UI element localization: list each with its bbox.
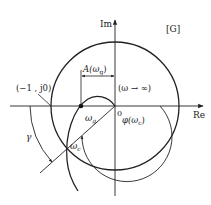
plot-label-text: [G] — [166, 24, 180, 34]
gain-magnitude-close: ) — [103, 64, 106, 74]
omega-c-label: ωc — [70, 141, 81, 152]
omega-infinity-label: (ω → ∞) — [118, 83, 151, 93]
phase-margin-label: γ — [26, 132, 32, 142]
gain-magnitude-text: A(ω — [82, 64, 99, 74]
gain-magnitude-label: A(ωg) — [82, 64, 107, 76]
omega-c-sub: c — [77, 145, 81, 152]
phase-angle-label: φ(ωc) — [122, 115, 145, 126]
critical-point-label: (−1 , j0) — [16, 83, 51, 93]
critical-point-leader — [38, 94, 51, 106]
real-axis-label: Re — [193, 110, 205, 120]
nyquist-diagram: Im [G] Re 0 (−1 , j0) A(ωg) (ω → ∞) ωg ω… — [0, 0, 211, 205]
omega-g-sub: g — [92, 117, 96, 125]
phase-angle-text: φ(ω — [122, 115, 138, 125]
phase-angle-close: ) — [142, 115, 145, 125]
phase-margin-arc — [30, 106, 52, 162]
omega-g-label: ωg — [85, 113, 96, 125]
plot-label: [G] — [166, 24, 180, 34]
imag-axis-label: Im — [100, 19, 113, 29]
